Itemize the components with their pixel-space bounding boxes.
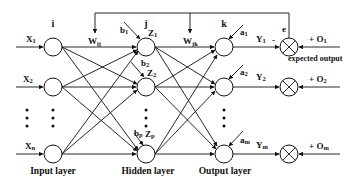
output-y-label-2: Y2 (256, 72, 266, 82)
hidden-node-1 (137, 38, 155, 56)
hidden-node-p (137, 145, 155, 163)
hidden-bias-label-2: b2 (141, 58, 149, 68)
input-layer-nodes (44, 38, 62, 163)
hidden-layer-caption: Hidden layer (121, 166, 175, 176)
output-index-label: k (221, 18, 227, 29)
target-arrows (299, 47, 340, 154)
output-node-1 (215, 38, 233, 56)
output-y-label-m: Ym (256, 140, 269, 150)
comparator-2 (280, 78, 298, 96)
target-label-1: + O1 (309, 34, 327, 44)
output-bias-label-2: a2 (240, 67, 248, 77)
weight-ij-label: Wij (88, 36, 101, 47)
input-layer-caption: Input layer (30, 166, 76, 176)
hidden-output-connections (155, 47, 217, 154)
error-label: e (282, 24, 286, 34)
hidden-z-label-p: Zp (145, 129, 155, 139)
input-label-1: X1 (26, 34, 36, 44)
hidden-z-label-2: Z2 (147, 68, 156, 78)
output-node-m (215, 145, 233, 163)
hidden-bias-label-1: b1 (120, 25, 128, 35)
output-node-2 (215, 78, 233, 96)
input-node-2 (44, 78, 62, 96)
weight-jk-label: Wjk (183, 36, 198, 47)
expected-output-label: expected output (288, 54, 343, 63)
input-hidden-connections (62, 47, 138, 154)
input-arrows (16, 47, 43, 154)
target-label-2: + O2 (309, 74, 327, 84)
hidden-z-label-1: Z1 (148, 28, 157, 38)
hidden-bias-label-p: bp (134, 128, 143, 138)
output-y-label-1: Y1 (256, 34, 266, 44)
neural-network-diagram: i j k Wij Wjk X1 X2 Xn b1 Z1 b2 Z2 bp Zp… (0, 0, 359, 184)
output-bias-label-m: am (240, 135, 251, 145)
output-layer-caption: Output layer (199, 166, 252, 176)
comparator-m (280, 145, 298, 163)
input-label-2: X2 (23, 74, 33, 84)
hidden-layer-nodes (137, 38, 155, 163)
minus-sign: - (272, 35, 275, 45)
hidden-node-2 (137, 78, 155, 96)
output-bias-label-1: a1 (240, 27, 248, 37)
input-label-n: Xn (25, 141, 36, 151)
input-node-1 (44, 38, 62, 56)
input-node-n (44, 145, 62, 163)
input-index-label: i (52, 18, 55, 29)
target-label-m: + Om (309, 141, 329, 151)
